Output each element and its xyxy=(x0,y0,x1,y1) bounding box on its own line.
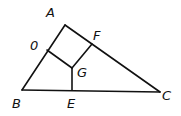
label-a: A xyxy=(45,5,55,20)
label-e: E xyxy=(67,96,76,111)
label-c: C xyxy=(162,88,172,103)
segments xyxy=(22,25,160,92)
label-g: G xyxy=(77,65,87,80)
segment-dg xyxy=(47,50,72,68)
segment-bc xyxy=(22,90,160,92)
label-f: F xyxy=(93,28,101,43)
triangle-diagram: ABC0FGE xyxy=(0,0,181,116)
label-d: 0 xyxy=(30,38,38,53)
label-b: B xyxy=(12,96,21,111)
point-labels: ABC0FGE xyxy=(12,5,172,111)
